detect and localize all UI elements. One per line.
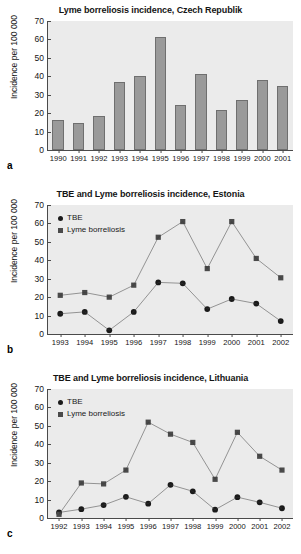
y-axis-tick: 0 bbox=[39, 329, 48, 339]
y-axis-tick: 30 bbox=[35, 458, 48, 468]
x-axis-tick: 1995 bbox=[117, 522, 134, 531]
x-axis-tick: 1993 bbox=[52, 338, 69, 347]
x-axis-tick: 2001 bbox=[251, 522, 268, 531]
y-axis-tick: 40 bbox=[35, 255, 48, 265]
bar bbox=[73, 123, 84, 150]
x-axis-tick: 1994 bbox=[76, 338, 93, 347]
y-axis-tick: 30 bbox=[35, 90, 48, 100]
x-axis-tick: 1997 bbox=[162, 522, 179, 531]
x-axis-tick: 1992 bbox=[91, 154, 108, 163]
x-axis-tick: 1991 bbox=[70, 154, 87, 163]
bar bbox=[236, 100, 247, 150]
panel-a-y-axis-label: Incidence per 100 000 bbox=[9, 0, 19, 117]
y-axis-tick: 0 bbox=[39, 145, 48, 155]
x-axis-tick: 2002 bbox=[272, 338, 289, 347]
bar bbox=[195, 74, 206, 150]
x-axis-tick: 1993 bbox=[73, 522, 90, 531]
x-axis-tick: 1998 bbox=[184, 522, 201, 531]
x-axis-tick: 1993 bbox=[111, 154, 128, 163]
panel-c: TBE and Lyme borreliosis incidence, Lith… bbox=[0, 368, 301, 552]
panel-c-y-axis-label: Incidence per 100 000 bbox=[9, 365, 19, 485]
bar bbox=[277, 86, 288, 151]
y-axis-tick: 20 bbox=[35, 476, 48, 486]
series-line bbox=[60, 222, 281, 298]
x-axis-tick: 1998 bbox=[174, 338, 191, 347]
x-axis-tick: 2001 bbox=[274, 154, 291, 163]
series-line bbox=[60, 282, 281, 330]
x-axis-tick: 1999 bbox=[234, 154, 251, 163]
series-layer bbox=[48, 389, 293, 518]
x-axis-tick: 1995 bbox=[101, 338, 118, 347]
panel-b-title: TBE and Lyme borreliosis incidence, Esto… bbox=[0, 189, 301, 199]
bar bbox=[155, 37, 166, 150]
panel-b-y-axis-label: Incidence per 100 000 bbox=[9, 181, 19, 301]
y-axis-tick: 40 bbox=[35, 439, 48, 449]
y-axis-tick: 70 bbox=[35, 200, 48, 210]
x-axis-tick: 2000 bbox=[223, 338, 240, 347]
x-axis-tick: 1994 bbox=[131, 154, 148, 163]
bar bbox=[52, 120, 63, 150]
x-axis-tick: 2000 bbox=[229, 522, 246, 531]
panel-c-title: TBE and Lyme borreliosis incidence, Lith… bbox=[0, 373, 301, 383]
y-axis-tick: 50 bbox=[35, 53, 48, 63]
panel-c-letter: c bbox=[7, 528, 13, 539]
x-axis-tick: 1999 bbox=[199, 338, 216, 347]
panel-a-letter: a bbox=[7, 160, 13, 171]
bar bbox=[216, 110, 227, 150]
bar bbox=[134, 76, 145, 150]
y-axis-tick: 10 bbox=[35, 127, 48, 137]
y-axis-tick: 60 bbox=[35, 218, 48, 228]
series-line bbox=[59, 485, 282, 513]
x-axis-tick: 1990 bbox=[50, 154, 67, 163]
y-axis-tick: 60 bbox=[35, 402, 48, 412]
panel-a-plot-area: 0102030405060701990199119921993199419951… bbox=[47, 21, 293, 151]
y-axis-tick: 50 bbox=[35, 421, 48, 431]
y-axis-tick: 0 bbox=[39, 513, 48, 523]
bar bbox=[257, 80, 268, 150]
x-axis-tick: 1996 bbox=[125, 338, 142, 347]
x-axis-tick: 2002 bbox=[274, 522, 291, 531]
y-axis-tick: 70 bbox=[35, 16, 48, 26]
y-axis-tick: 60 bbox=[35, 34, 48, 44]
x-axis-tick: 1997 bbox=[193, 154, 210, 163]
x-axis-tick: 1998 bbox=[213, 154, 230, 163]
panel-b: TBE and Lyme borreliosis incidence, Esto… bbox=[0, 184, 301, 368]
x-axis-tick: 1999 bbox=[207, 522, 224, 531]
series-layer bbox=[48, 205, 293, 334]
y-axis-tick: 10 bbox=[35, 495, 48, 505]
bar bbox=[175, 105, 186, 150]
x-axis-tick: 2001 bbox=[248, 338, 265, 347]
y-axis-tick: 20 bbox=[35, 108, 48, 118]
x-axis-tick: 1994 bbox=[95, 522, 112, 531]
x-axis-tick: 1996 bbox=[172, 154, 189, 163]
panel-a-title: Lyme borreliosis incidence, Czech Republ… bbox=[0, 5, 301, 15]
figure-container: Lyme borreliosis incidence, Czech Republ… bbox=[0, 0, 301, 554]
x-axis-tick: 1995 bbox=[152, 154, 169, 163]
x-axis-tick: 1996 bbox=[140, 522, 157, 531]
y-axis-tick: 40 bbox=[35, 71, 48, 81]
y-axis-tick: 70 bbox=[35, 384, 48, 394]
x-axis-tick: 2000 bbox=[254, 154, 271, 163]
x-axis-tick: 1992 bbox=[51, 522, 68, 531]
panel-b-letter: b bbox=[7, 344, 13, 355]
y-axis-tick: 50 bbox=[35, 237, 48, 247]
y-axis-tick: 30 bbox=[35, 274, 48, 284]
bar bbox=[114, 82, 125, 150]
bar bbox=[93, 116, 104, 150]
x-axis-tick: 1997 bbox=[150, 338, 167, 347]
y-axis-tick: 20 bbox=[35, 292, 48, 302]
y-axis-tick: 10 bbox=[35, 311, 48, 321]
panel-c-plot-area: TBE Lyme borreliosis 0102030405060701992… bbox=[47, 389, 293, 519]
panel-a: Lyme borreliosis incidence, Czech Republ… bbox=[0, 0, 301, 184]
panel-b-plot-area: TBE Lyme borreliosis 0102030405060701993… bbox=[47, 205, 293, 335]
series-line bbox=[59, 422, 282, 514]
